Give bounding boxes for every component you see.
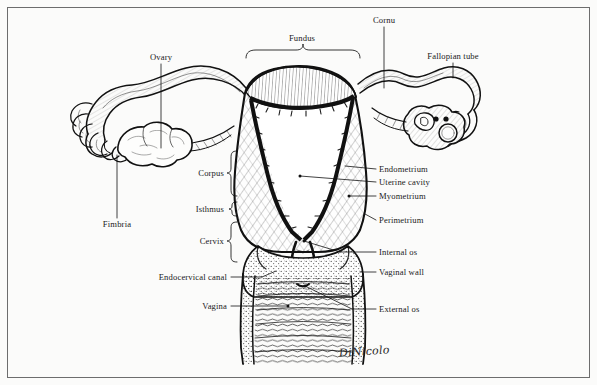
label-myometrium: Myometrium [379,192,426,201]
label-ovary: Ovary [150,53,172,62]
label-cornu: Cornu [373,16,395,25]
label-uterine-cavity: Uterine cavity [379,178,430,187]
label-vagina: Vagina [202,302,227,311]
label-endocervical-canal: Endocervical canal [159,273,227,282]
label-external-os: External os [379,305,420,314]
label-fundus: Fundus [289,34,315,43]
figure-canvas: Fundus Cornu Ovary Fallopian tube Fimbri… [0,0,597,385]
label-cervix: Cervix [200,237,224,246]
label-fallopian-tube: Fallopian tube [427,52,479,61]
label-internal-os: Internal os [379,248,417,257]
label-corpus: Corpus [198,169,224,178]
label-vaginal-wall: Vaginal wall [379,268,424,277]
label-perimetrium: Perimetrium [379,216,424,225]
label-endometrium: Endometrium [379,165,428,174]
anatomy-illustration [0,0,597,385]
label-fimbria: Fimbria [103,220,131,229]
label-isthmus: Isthmus [196,205,224,214]
